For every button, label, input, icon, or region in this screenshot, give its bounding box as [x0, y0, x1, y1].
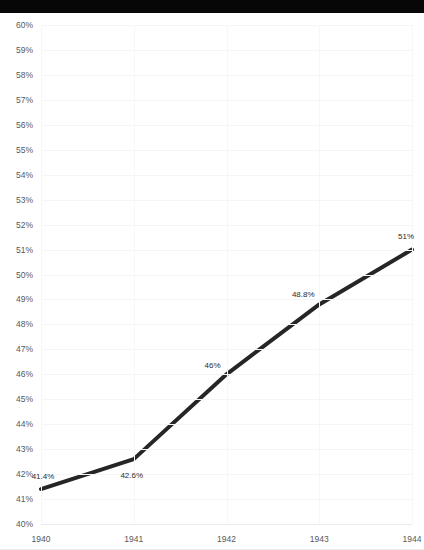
gridline-vertical — [319, 25, 320, 524]
data-point-label: 51% — [398, 231, 414, 240]
y-axis-tick-label: 46% — [16, 369, 33, 379]
y-axis-tick-label: 51% — [16, 245, 33, 255]
y-axis-tick-label: 50% — [16, 270, 33, 280]
y-axis-tick-label: 49% — [16, 294, 33, 304]
gridline-horizontal — [41, 524, 412, 525]
data-point-label: 41.4% — [32, 472, 55, 481]
y-axis-tick-label: 54% — [16, 170, 33, 180]
y-axis-tick-label: 53% — [16, 195, 33, 205]
gridline-vertical — [227, 25, 228, 524]
y-axis-tick-label: 58% — [16, 70, 33, 80]
gridline-vertical — [134, 25, 135, 524]
data-point-label: 42.6% — [120, 471, 143, 480]
line-chart: 60%59%58%57%56%55%54%53%52%51%50%49%48%4… — [0, 13, 424, 550]
y-axis-tick-label: 40% — [16, 519, 33, 529]
gridline-vertical — [41, 25, 42, 524]
y-axis-tick-label: 57% — [16, 95, 33, 105]
chart-screenshot: 60%59%58%57%56%55%54%53%52%51%50%49%48%4… — [0, 0, 424, 550]
y-axis-tick-label: 42% — [16, 469, 33, 479]
y-axis-tick-label: 55% — [16, 145, 33, 155]
gridline-vertical — [412, 25, 413, 524]
data-point-label: 46% — [204, 361, 220, 370]
x-axis-tick-label: 1944 — [403, 534, 422, 544]
x-axis-tick-label: 1940 — [32, 534, 51, 544]
y-axis-tick-label: 48% — [16, 319, 33, 329]
y-axis-tick-label: 44% — [16, 419, 33, 429]
y-axis-tick-label: 45% — [16, 394, 33, 404]
y-axis-tick-label: 52% — [16, 220, 33, 230]
y-axis-tick-label: 47% — [16, 344, 33, 354]
x-axis-tick-label: 1941 — [124, 534, 143, 544]
x-axis-tick-label: 1942 — [217, 534, 236, 544]
data-point-label: 48.8% — [292, 290, 315, 299]
x-axis-tick-label: 1943 — [310, 534, 329, 544]
y-axis-tick-label: 43% — [16, 444, 33, 454]
y-axis-tick-label: 60% — [16, 20, 33, 30]
window-titlebar — [0, 0, 424, 13]
y-axis-tick-label: 41% — [16, 494, 33, 504]
plot-area: 60%59%58%57%56%55%54%53%52%51%50%49%48%4… — [41, 25, 412, 524]
y-axis-tick-label: 56% — [16, 120, 33, 130]
y-axis-tick-label: 59% — [16, 45, 33, 55]
